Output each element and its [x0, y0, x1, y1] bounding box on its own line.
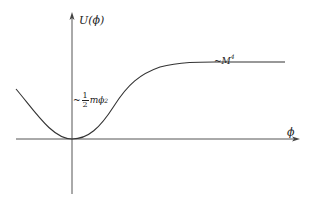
quadratic-annotation: ~ 1 2 mϕ2: [73, 92, 108, 110]
plateau-expr: M: [222, 56, 231, 66]
plateau-annotation: ~M4: [214, 54, 235, 66]
tilde: ~: [73, 96, 81, 105]
potential-curve: [16, 62, 285, 139]
y-axis-label: U(ϕ): [79, 15, 104, 26]
quadratic-expr: mϕ: [90, 96, 105, 105]
tilde: ~: [214, 56, 222, 66]
fraction-denominator: 2: [83, 101, 88, 109]
plateau-power: 4: [231, 53, 235, 60]
x-axis-label: ϕ: [287, 127, 295, 138]
fraction: 1 2: [82, 92, 89, 110]
potential-plot: [0, 0, 311, 206]
quadratic-power: 2: [104, 98, 108, 104]
